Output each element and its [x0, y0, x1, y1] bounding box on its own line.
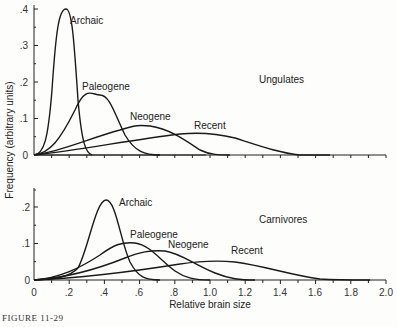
figure-canvas: 0 .1 .2 .3 .4 Archaic Paleogene Neogene …: [0, 0, 397, 327]
xticks: 0 .2 .4 .6 .8 1.0 1.2 1.4 1.6 1.8 2.0: [31, 287, 393, 298]
ytick-label: .3: [20, 40, 29, 51]
label-ungulates-neogene: Neogene: [130, 111, 171, 122]
ytick-label: 0: [22, 150, 28, 161]
xtick-label: 0: [31, 287, 37, 298]
ytick-label: .1: [22, 238, 31, 249]
ytick-label: .4: [20, 4, 29, 15]
xtick-label: 1.0: [203, 287, 217, 298]
xtick-label: .2: [65, 287, 74, 298]
xtick-label: .6: [135, 287, 144, 298]
upper-yticks: 0 .1 .2 .3 .4: [20, 4, 29, 161]
xtick-label: 2.0: [379, 287, 393, 298]
xtick-label: 1.8: [344, 287, 358, 298]
xtick-label: 1.2: [238, 287, 252, 298]
lower-yticks: 0 .1 .2: [22, 202, 31, 286]
panel-title-carnivores: Carnivores: [259, 214, 307, 225]
label-ungulates-paleogene: Paleogene: [82, 81, 130, 92]
label-carnivores-neogene: Neogene: [168, 239, 209, 250]
curve-carnivores-neogene: [34, 251, 255, 280]
xtick-label: .4: [100, 287, 109, 298]
xtick-label: .8: [170, 287, 179, 298]
ytick-label: .1: [20, 113, 29, 124]
label-carnivores-recent: Recent: [231, 245, 263, 256]
xtick-label: 1.4: [273, 287, 287, 298]
ytick-label: 0: [24, 275, 30, 286]
lower-axes: [34, 188, 386, 284]
panel-title-ungulates: Ungulates: [259, 74, 304, 85]
label-carnivores-archaic: Archaic: [119, 197, 152, 208]
y-axis-label: Frequency (arbitrary units): [4, 81, 15, 198]
ytick-label: .2: [20, 77, 29, 88]
label-ungulates-recent: Recent: [194, 120, 226, 131]
figure-caption: FIGURE 11-29: [2, 313, 63, 323]
x-axis-label: Relative brain size: [169, 299, 251, 310]
label-ungulates-archaic: Archaic: [70, 15, 103, 26]
xtick-label: 1.6: [308, 287, 322, 298]
ytick-label: .2: [22, 202, 31, 213]
